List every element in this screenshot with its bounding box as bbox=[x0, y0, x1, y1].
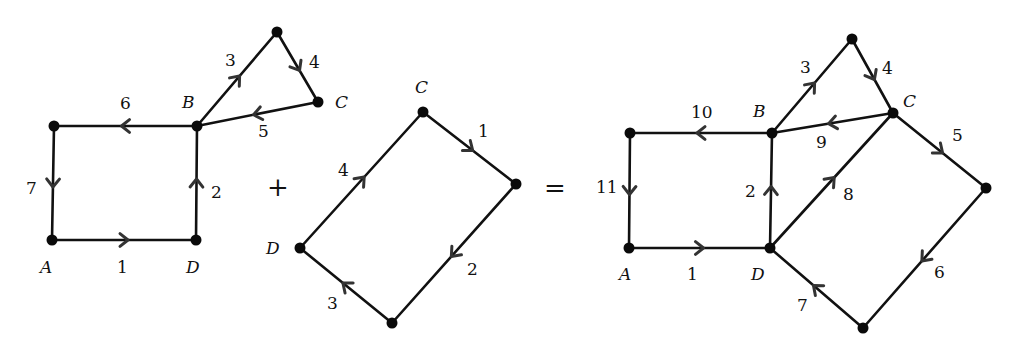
vertex bbox=[981, 183, 992, 194]
vertex-label: D bbox=[185, 257, 200, 277]
vertex-label: B bbox=[181, 92, 195, 112]
edge-3 bbox=[300, 248, 392, 323]
vertex-d bbox=[191, 235, 202, 246]
vertex-label: A bbox=[38, 257, 52, 277]
edge-4 bbox=[300, 112, 423, 248]
edge-label: 2 bbox=[467, 259, 478, 279]
edge-2 bbox=[196, 126, 197, 240]
vertex-label: C bbox=[335, 92, 348, 112]
edge-label: 2 bbox=[745, 181, 756, 201]
edge-1 bbox=[423, 112, 516, 184]
vertex-label: D bbox=[750, 264, 765, 284]
edge-label: 1 bbox=[117, 257, 128, 277]
plus-operator: + bbox=[267, 172, 289, 202]
vertex bbox=[858, 323, 869, 334]
edge-label: 3 bbox=[225, 50, 236, 70]
edge-5 bbox=[893, 113, 986, 188]
vertex-a bbox=[624, 243, 635, 254]
vertex-label: D bbox=[265, 238, 280, 258]
vertex-a bbox=[47, 235, 58, 246]
edge-label: 7 bbox=[26, 178, 37, 198]
vertex-c bbox=[313, 97, 324, 108]
graph-right-combined-cycle: 1234567891011BADC bbox=[596, 34, 992, 334]
edge-3 bbox=[772, 39, 852, 133]
edge-label: 6 bbox=[120, 93, 131, 113]
vertex-label: B bbox=[752, 101, 766, 121]
edge-label: 11 bbox=[596, 177, 618, 197]
edge-6 bbox=[863, 188, 986, 328]
vertex bbox=[847, 34, 858, 45]
vertex-b bbox=[192, 121, 203, 132]
edge-label: 4 bbox=[882, 58, 893, 78]
vertex-b bbox=[767, 128, 778, 139]
vertex-c bbox=[888, 108, 899, 119]
edge-label: 4 bbox=[309, 52, 320, 72]
edge-11 bbox=[629, 133, 630, 248]
edge-label: 5 bbox=[258, 121, 269, 141]
vertex bbox=[511, 179, 522, 190]
vertex-d bbox=[295, 243, 306, 254]
edge-label: 1 bbox=[478, 121, 489, 141]
edge-label: 7 bbox=[797, 295, 808, 315]
edge-label: 6 bbox=[934, 262, 945, 282]
edge-label: 5 bbox=[952, 125, 963, 145]
edge-7 bbox=[52, 126, 54, 240]
edge-label: 9 bbox=[816, 132, 827, 152]
edge-label: 4 bbox=[338, 160, 349, 180]
edge-2 bbox=[392, 184, 516, 323]
edge-9 bbox=[772, 113, 893, 133]
graph-left-two-cycles: 1234567BADC bbox=[26, 27, 348, 278]
edge-7 bbox=[770, 248, 863, 328]
vertex-c bbox=[418, 107, 429, 118]
equals-operator: = bbox=[544, 173, 566, 203]
vertex-label: A bbox=[617, 264, 631, 284]
edge-label: 2 bbox=[211, 182, 222, 202]
edge-2 bbox=[770, 133, 772, 248]
vertex-d bbox=[765, 243, 776, 254]
vertex-label: C bbox=[415, 77, 428, 97]
edge-8 bbox=[770, 113, 893, 248]
vertex bbox=[625, 128, 636, 139]
vertex bbox=[272, 27, 283, 38]
vertex bbox=[387, 318, 398, 329]
edge-label: 10 bbox=[691, 102, 713, 122]
edge-label: 3 bbox=[800, 57, 811, 77]
edge-label: 8 bbox=[843, 184, 854, 204]
graph-middle-cycle: 1234CD bbox=[265, 77, 522, 329]
edge-label: 3 bbox=[327, 293, 338, 313]
vertex bbox=[49, 121, 60, 132]
edge-label: 1 bbox=[687, 264, 698, 284]
vertex-label: C bbox=[903, 91, 916, 111]
cycle-sum-diagram: 1234567BADC + 1234CD = 1234567891011BADC bbox=[0, 0, 1017, 349]
